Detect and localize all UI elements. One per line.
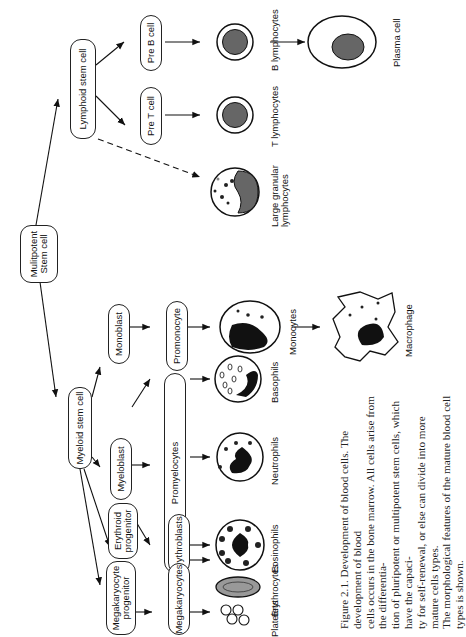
label-monocytes: Monocytes bbox=[288, 309, 298, 355]
caption-line: The morphological features of the mature… bbox=[440, 394, 466, 629]
node-promonocyte: Promonocyte bbox=[166, 301, 188, 371]
label-basophils: Basophils bbox=[270, 362, 280, 403]
label-macrophage: Macrophage bbox=[404, 304, 414, 357]
label-plasma-cell: Plasma cell bbox=[392, 18, 402, 67]
node-myeloid-stem-cell: Myeloid stem cell bbox=[68, 387, 92, 469]
node-lymphoid-stem-cell: Lymphoid stem cell bbox=[70, 39, 96, 139]
node-megakaryocyte-progenitor: Megakaryocyte progenitor bbox=[106, 561, 136, 635]
node-monoblast: Monoblast bbox=[108, 304, 130, 364]
node-multipotent-stem-cell: Mulitpotent Stem cell bbox=[20, 225, 58, 283]
b-lymphocyte-cell bbox=[217, 24, 253, 60]
node-myeloblast: Myeloblast bbox=[110, 438, 132, 500]
caption-line: tion of pluripotent or multipotent stem … bbox=[389, 394, 415, 629]
label-t-lymphocytes: T lymphocytes bbox=[270, 86, 280, 147]
label-b-lymphocytes: B lymphocytes bbox=[270, 9, 280, 71]
caption-line: Figure 2.1. Development of blood cells. … bbox=[338, 394, 364, 629]
node-pre-b-cell: Pre B cell bbox=[140, 15, 162, 71]
caption-line: cells occurs in the bone marrow. All cel… bbox=[364, 394, 390, 629]
label-neutrophils: Neutrophils bbox=[270, 437, 280, 485]
node-pre-t-cell: Pre T cell bbox=[140, 87, 162, 145]
node-megakaryocytes: Megakaryocytes bbox=[168, 563, 190, 635]
figure-caption: Figure 2.1. Development of blood cells. … bbox=[338, 394, 466, 629]
node-erythroid-progenitor: Erythroid progenitor bbox=[108, 503, 138, 559]
label-large-granular-lymphocytes: Large granular lymphocytes bbox=[270, 165, 290, 227]
label-platelets: Platelets bbox=[270, 601, 280, 637]
caption-line: ty for self-renewal, or else can divide … bbox=[415, 394, 441, 629]
